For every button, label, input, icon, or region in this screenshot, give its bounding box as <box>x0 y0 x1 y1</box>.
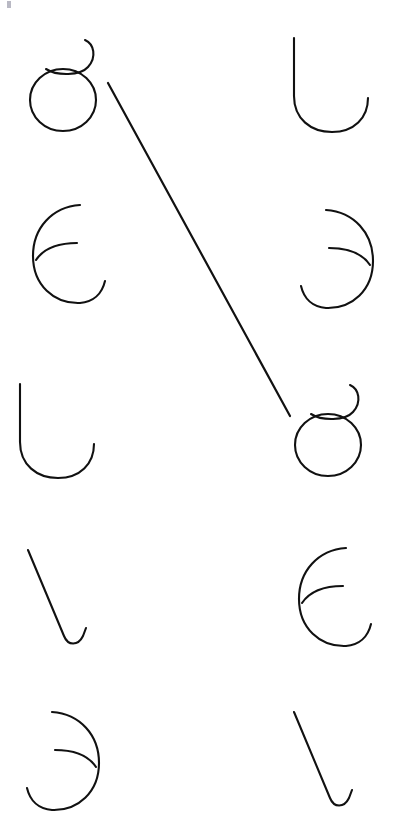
right-glyph-1[interactable] <box>288 36 378 136</box>
diagonal-hook-path <box>294 712 352 806</box>
epsilon-outer-arc <box>33 205 105 303</box>
right-glyph-3[interactable] <box>293 383 377 483</box>
epsilon-mirrored-inner-arc <box>329 248 370 265</box>
right-glyph-5[interactable] <box>292 710 362 815</box>
left-glyph-2[interactable] <box>30 203 110 308</box>
right-glyph-2[interactable] <box>296 208 376 313</box>
circle-curl-body <box>295 414 361 476</box>
epsilon-inner-arc <box>36 243 77 260</box>
left-glyph-1[interactable] <box>28 38 112 138</box>
left-glyph-5[interactable] <box>22 710 102 815</box>
puzzle-canvas-root <box>0 0 394 838</box>
u-hook-path <box>20 384 94 478</box>
match-line-left1-to-right3[interactable] <box>108 83 290 416</box>
right-glyph-4[interactable] <box>296 546 376 651</box>
epsilon-mirrored-outer-arc <box>27 712 99 810</box>
circle-curl-body <box>30 69 96 131</box>
epsilon-outer-arc <box>299 548 371 646</box>
epsilon-mirrored-outer-arc <box>301 210 373 308</box>
epsilon-inner-arc <box>302 586 343 603</box>
left-glyph-4[interactable] <box>26 548 96 653</box>
epsilon-mirrored-inner-arc <box>55 750 96 767</box>
diagonal-hook-path <box>28 550 86 644</box>
u-hook-path <box>294 38 368 132</box>
left-glyph-3[interactable] <box>14 382 104 482</box>
